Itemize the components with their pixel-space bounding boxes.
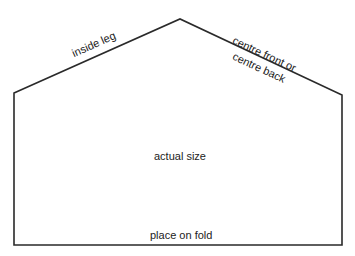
pattern-piece-shape <box>14 19 342 245</box>
pattern-diagram: inside leg centre front or centre back a… <box>0 0 355 256</box>
pattern-outline <box>0 0 355 256</box>
actual-size-label: actual size <box>154 150 206 162</box>
place-on-fold-label: place on fold <box>150 229 212 241</box>
